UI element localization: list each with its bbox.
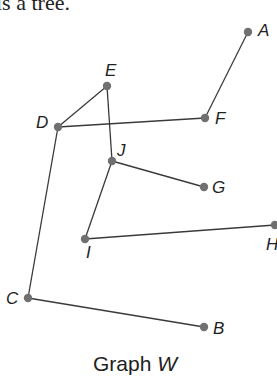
labels: ABCDEFGHIJ: [6, 21, 277, 338]
node-j: [108, 157, 116, 165]
edge-d-c: [28, 127, 58, 298]
edge-a-f: [205, 32, 248, 118]
node-label-f: F: [215, 109, 227, 128]
node-e: [103, 82, 111, 90]
edge-c-b: [28, 298, 204, 327]
node-c: [24, 294, 32, 302]
node-a: [244, 28, 252, 36]
edge-d-e: [58, 86, 107, 127]
node-label-g: G: [212, 178, 225, 197]
edges: [28, 32, 275, 327]
node-label-e: E: [105, 61, 117, 80]
node-d: [54, 123, 62, 131]
caption-text: Graph: [93, 352, 157, 375]
node-label-b: B: [213, 319, 224, 338]
node-label-a: A: [257, 21, 269, 40]
edge-d-f: [58, 118, 205, 127]
graph-w-diagram: ABCDEFGHIJ Graph W: [0, 0, 277, 379]
node-b: [200, 323, 208, 331]
graph-caption: Graph W: [93, 352, 179, 375]
edge-j-i: [85, 161, 112, 239]
nodes: [24, 28, 277, 331]
node-f: [201, 114, 209, 122]
node-h: [271, 221, 277, 229]
node-label-j: J: [116, 141, 126, 160]
node-g: [200, 183, 208, 191]
node-label-h: H: [266, 235, 277, 254]
node-label-c: C: [6, 289, 19, 308]
node-label-i: I: [86, 243, 91, 262]
edge-j-g: [112, 161, 204, 187]
node-label-d: D: [36, 113, 48, 132]
caption-variable: W: [157, 352, 179, 375]
edge-i-h: [85, 225, 275, 239]
node-i: [81, 235, 89, 243]
